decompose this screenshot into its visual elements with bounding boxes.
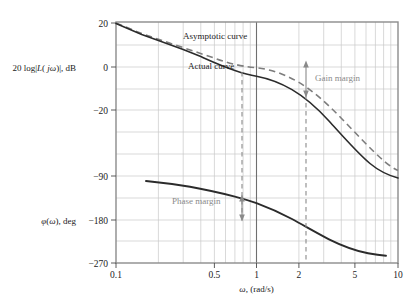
y-mag-tick-label-1: 0 (103, 63, 108, 73)
y-mag-tick-label-2: −20 (93, 106, 108, 116)
x-tick-label-5: 10 (393, 270, 403, 280)
y-phase-axis-label: φ(ω), deg (41, 216, 76, 226)
x-axis-label: ω, (rad/s) (239, 284, 273, 294)
y-magnitude-axis-label: 20 log|L( jω)|, dB (12, 63, 76, 73)
y-phase-tick-label-1: −180 (88, 216, 108, 226)
actual-curve-label: Actual curve (188, 61, 234, 71)
y-mag-label-close: )|, dB (56, 63, 76, 73)
y-mag-tick-label-0: 20 (99, 19, 109, 29)
phase-margin-label: Phase margin (172, 196, 221, 206)
asymptotic-curve-label: Asymptotic curve (183, 31, 247, 41)
gain-margin-label: Gain margin (315, 73, 361, 83)
y-phase-tick-label-2: −270 (88, 259, 108, 269)
x-tick-label-3: 2 (297, 270, 302, 280)
bode-plot-svg: Gain margin Phase margin Asymptotic curv… (0, 0, 420, 301)
x-tick-label-1: 0.5 (208, 270, 220, 280)
x-tick-label-2: 1 (254, 270, 259, 280)
bode-plot-figure: Gain margin Phase margin Asymptotic curv… (0, 0, 420, 301)
x-axis-label-rest: , (rad/s) (246, 284, 274, 294)
y-phase-label-close: ), deg (56, 216, 77, 226)
y-mag-label-pre: 20 log| (12, 63, 37, 73)
x-tick-label-0: 0.1 (110, 270, 122, 280)
y-phase-tick-label-0: −90 (93, 172, 108, 182)
x-tick-label-4: 5 (353, 270, 358, 280)
